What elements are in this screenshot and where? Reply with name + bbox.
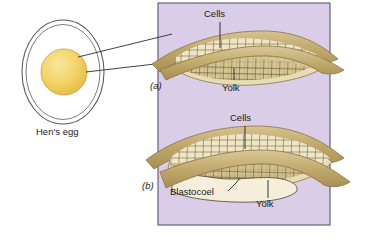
panel-b-blastocoel-label: Blastocoel	[170, 186, 214, 197]
panel-a-marker: (a)	[150, 80, 162, 91]
egg-development-figure: Hen's egg (a) (b) Cells Yolk Cells Blast…	[0, 0, 370, 239]
panel-b-yolk-label: Yolk	[256, 198, 274, 209]
panel-b-marker: (b)	[142, 180, 154, 191]
egg-yolk-shape	[41, 49, 87, 95]
panel-a-yolk-label: Yolk	[222, 82, 240, 93]
panel-a-cells-label: Cells	[204, 8, 225, 19]
panel-b-cells-label: Cells	[230, 112, 251, 123]
hens-egg-label: Hen's egg	[36, 126, 78, 137]
hens-egg-illustration	[22, 20, 104, 124]
figure-canvas	[0, 0, 370, 239]
